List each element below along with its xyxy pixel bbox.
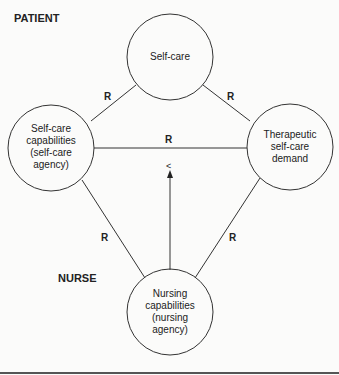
patient-heading: PATIENT <box>14 12 59 24</box>
node-text: Self-care <box>11 123 91 135</box>
relation-r-top-right: R <box>227 91 234 103</box>
relation-r-bottom-left: R <box>101 232 108 244</box>
node-self-care: Self-care <box>130 51 210 63</box>
deficit-symbol: < <box>166 160 171 172</box>
node-text: agency) <box>11 159 91 171</box>
node-text: agency) <box>130 324 210 336</box>
relation-r-middle: R <box>165 134 172 146</box>
line-selfcare-capabilities <box>91 85 136 121</box>
self-care-deficit-diagram: PATIENT NURSE Self-care Self-care capabi… <box>0 0 339 375</box>
node-text: Self-care <box>130 51 210 63</box>
node-text: (self-care <box>11 147 91 159</box>
nurse-heading: NURSE <box>58 272 97 284</box>
relation-r-bottom-right: R <box>229 232 236 244</box>
node-text: self-care <box>250 141 330 153</box>
node-therapeutic-demand: Therapeutic self-care demand <box>250 129 330 165</box>
node-text: (nursing <box>130 312 210 324</box>
line-capabilities-nursing <box>82 180 145 278</box>
line-demand-nursing <box>195 178 260 278</box>
relation-r-top-left: R <box>104 91 111 103</box>
node-text: capabilities <box>11 135 91 147</box>
node-nursing-capabilities: Nursing capabilities (nursing agency) <box>130 288 210 336</box>
node-text: Therapeutic <box>250 129 330 141</box>
node-text: Nursing <box>130 288 210 300</box>
node-self-care-capabilities: Self-care capabilities (self-care agency… <box>11 123 91 171</box>
node-text: demand <box>250 153 330 165</box>
node-text: capabilities <box>130 300 210 312</box>
